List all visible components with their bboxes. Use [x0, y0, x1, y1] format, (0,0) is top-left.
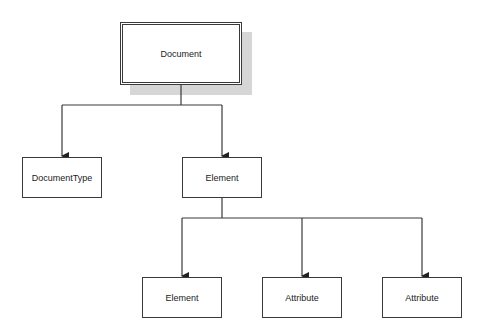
node-label: Attribute — [405, 293, 439, 303]
node-label: DocumentType — [32, 173, 93, 183]
child-element-node: Element — [142, 277, 222, 318]
attribute-node-2: Attribute — [382, 277, 462, 318]
document-node: Document — [120, 22, 242, 85]
node-label: Attribute — [285, 293, 319, 303]
node-label: Document — [160, 49, 201, 59]
element-node: Element — [182, 157, 262, 198]
node-label: Element — [205, 173, 238, 183]
node-label: Element — [165, 293, 198, 303]
attribute-node-1: Attribute — [262, 277, 342, 318]
documenttype-node: DocumentType — [22, 157, 102, 198]
